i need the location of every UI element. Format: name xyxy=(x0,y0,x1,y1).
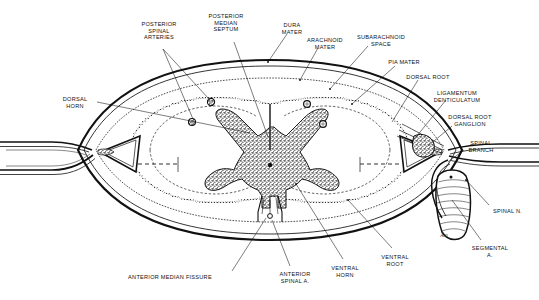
label-dura-mater: DURA MATER xyxy=(282,22,302,35)
label-pia-mater: PIA MATER xyxy=(388,59,420,66)
ligamentum-denticulatum-left xyxy=(98,136,140,172)
label-spinal-branch: SPINAL BRANCH xyxy=(468,140,493,153)
label-ligamentum-denticulatum: LIGAMENTUM DENTICULATUM xyxy=(434,90,480,103)
label-posterior-median-septum: POSTERIOR MEDIAN SEPTUM xyxy=(208,13,243,33)
spinal-cord-figure xyxy=(0,0,539,300)
label-spinal-nerve: SPINAL N. xyxy=(493,208,522,215)
label-posterior-spinal-arteries: POSTERIOR SPINAL ARTERIES xyxy=(141,21,176,41)
label-anterior-median-fissure: ANTERIOR MEDIAN FISSURE xyxy=(128,274,212,281)
spinal-cord-diagram-page: POSTERIOR SPINAL ARTERIESPOSTERIOR MEDIA… xyxy=(0,0,539,300)
label-dorsal-root: DORSAL ROOT xyxy=(406,74,449,81)
label-subarachnoid-space: SUBARACHNOID SPACE xyxy=(357,34,405,47)
label-arachnoid-mater: ARACHNOID MATER xyxy=(307,37,343,50)
label-anterior-spinal-artery: ANTERIOR SPINAL A. xyxy=(280,271,311,284)
label-ventral-horn: VENTRAL HORN xyxy=(331,265,359,278)
label-segmental-artery: SEGMENTAL A. xyxy=(472,245,508,258)
label-ventral-root: VENTRAL ROOT xyxy=(381,254,409,267)
nerve-root-sleeves-left xyxy=(0,142,95,175)
annotation-nerve-sheath-mark: Ä.n xyxy=(440,232,447,238)
anterior-spinal-artery-vessel xyxy=(268,214,273,219)
label-dorsal-root-ganglion: DORSAL ROOT GANGLION xyxy=(448,114,491,127)
label-dorsal-horn: DORSAL HORN xyxy=(63,96,88,109)
